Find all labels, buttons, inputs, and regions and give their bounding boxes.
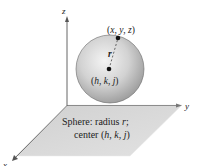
center-point-label: (h, k, j) bbox=[91, 76, 118, 87]
radius-label: r bbox=[108, 49, 112, 59]
x-axis-label: x bbox=[2, 160, 7, 166]
z-axis-label: z bbox=[61, 6, 66, 16]
surface-point-label: (x, y, z) bbox=[107, 25, 135, 36]
caption-line-1: Sphere: radius r; bbox=[62, 116, 129, 127]
sphere-diagram: z y x (x, y, z) r (h, k, j) Sphere: radi… bbox=[0, 0, 201, 166]
center-point bbox=[107, 67, 112, 72]
caption-line-2: center (h, k, j) bbox=[74, 129, 130, 141]
y-axis-label: y bbox=[184, 101, 189, 111]
surface-point bbox=[116, 36, 121, 41]
z-axis-arrow-icon bbox=[65, 16, 69, 22]
